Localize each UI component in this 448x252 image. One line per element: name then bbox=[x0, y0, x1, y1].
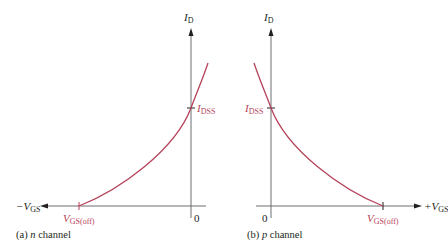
panel-a-vgsoff-main: V bbox=[63, 212, 70, 224]
panel-a-vgs-arrow-icon bbox=[40, 204, 48, 209]
panel-a-vgs-main: −V bbox=[16, 200, 30, 212]
panel-a-id-sub: D bbox=[188, 16, 194, 25]
panel-a-idss-sub: DSS bbox=[201, 107, 216, 116]
panel-a-idss-label: IDSS bbox=[197, 103, 215, 114]
panel-b-idss-label: IDSS bbox=[245, 103, 263, 114]
panel-b-id-arrow-icon bbox=[269, 28, 274, 36]
panel-b-vgsoff-sub: GS(off) bbox=[374, 217, 399, 226]
panel-b-vgs-arrow-icon bbox=[414, 204, 422, 209]
panel-b-transfer-curve bbox=[254, 63, 383, 206]
panel-a-origin-label: 0 bbox=[194, 213, 200, 224]
panel-b-id-label: ID bbox=[264, 12, 273, 23]
panel-b-origin-label: 0 bbox=[262, 213, 268, 224]
panel-b-vgs-sub: GS bbox=[438, 205, 448, 214]
panel-a-caption-suffix: channel bbox=[36, 229, 71, 240]
panel-b-idss-sub: DSS bbox=[249, 107, 264, 116]
panel-a-vgsoff-sub: GS(off) bbox=[70, 217, 95, 226]
panel-b-caption: (b) p channel bbox=[247, 229, 302, 240]
panel-a-n-channel bbox=[40, 28, 208, 218]
panel-a-id-arrow-icon bbox=[189, 28, 194, 36]
panel-b-caption-suffix: channel bbox=[267, 229, 302, 240]
panel-a-vgs-label: −VGS bbox=[16, 201, 40, 212]
panel-a-caption: (a) n channel bbox=[16, 229, 71, 240]
panel-a-id-label: ID bbox=[184, 12, 193, 23]
panel-a-caption-prefix: (a) bbox=[16, 229, 30, 240]
panel-a-vgs-sub: GS bbox=[30, 205, 40, 214]
panel-b-vgsoff-label: VGS(off) bbox=[367, 213, 398, 224]
panel-b-caption-prefix: (b) bbox=[247, 229, 262, 240]
panel-b-vgsoff-main: V bbox=[367, 212, 374, 224]
panel-a-transfer-curve bbox=[79, 63, 208, 206]
panel-b-vgs-main: +V bbox=[424, 200, 438, 212]
panel-b-p-channel bbox=[254, 28, 422, 218]
panel-b-vgs-label: +VGS bbox=[424, 201, 448, 212]
panel-a-vgsoff-label: VGS(off) bbox=[63, 213, 94, 224]
panel-b-id-sub: D bbox=[268, 16, 274, 25]
